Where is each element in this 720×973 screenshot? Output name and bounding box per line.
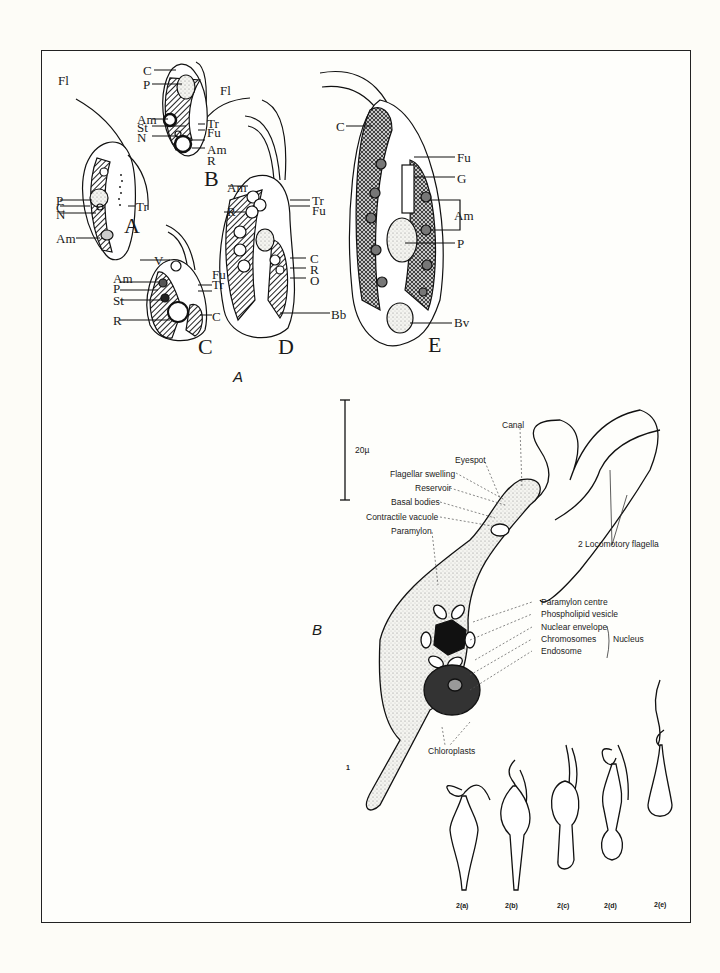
label-reservoir: Reservoir: [415, 484, 451, 493]
label-paramylon-centre: Paramylon centre: [541, 598, 608, 607]
stage-label-2d: 2(d): [604, 902, 617, 909]
label-Fu: Fu: [312, 204, 326, 217]
panel-label-A: A: [233, 368, 243, 385]
cell-label-D: D: [278, 336, 294, 358]
cell-label-A: A: [124, 215, 140, 237]
label-Tr: Tr: [136, 200, 148, 213]
cell-C: [120, 225, 212, 341]
stage-2e: [648, 680, 672, 816]
label-basal-bodies: Basal bodies: [391, 498, 440, 507]
label-G: G: [457, 172, 466, 185]
label-P: P: [143, 78, 150, 91]
figure-number: 1: [346, 764, 350, 771]
label-chloroplasts: Chloroplasts: [428, 747, 475, 756]
cell-E: [320, 72, 460, 346]
label-contractile-vacuole: Contractile vacuole: [366, 513, 438, 522]
label-paramylon: Paramylon: [391, 527, 432, 536]
stage-label-2b: 2(b): [505, 902, 518, 909]
label-chromosomes: Chromosomes: [541, 635, 596, 644]
label-endosome: Endosome: [541, 647, 582, 656]
scale-bar-label: 20µ: [355, 446, 369, 455]
label-N: N: [137, 131, 146, 144]
label-R: R: [227, 205, 236, 218]
label-Fl: Fl: [58, 74, 69, 87]
label-Fu: Fu: [207, 126, 221, 139]
label-C: C: [143, 64, 152, 77]
label-canal: Canal: [502, 421, 524, 430]
label-Bv: Bv: [454, 316, 469, 329]
label-Am: Am: [454, 209, 474, 222]
label-flagellar-swelling: Flagellar swelling: [390, 470, 455, 479]
cell-label-B: B: [204, 168, 219, 190]
stage-label-2a: 2(a): [456, 902, 468, 909]
stage-2b: [501, 760, 530, 890]
label-O: O: [310, 274, 319, 287]
stage-label-2c: 2(c): [557, 902, 569, 909]
label-Fu: Fu: [457, 151, 471, 164]
label-locomotory-flagella: 2 Locomotory flagella: [578, 540, 659, 549]
label-St: St: [113, 294, 124, 307]
label-Bb: Bb: [331, 308, 346, 321]
stage-2c: [552, 745, 579, 869]
scale-bar: [340, 400, 350, 500]
cell-D: [220, 100, 330, 338]
label-nucleus: Nucleus: [613, 635, 644, 644]
label-Am: Am: [56, 232, 76, 245]
panel-label-B: B: [312, 621, 322, 638]
label-Fl: Fl: [220, 84, 231, 97]
label-N: N: [56, 208, 65, 221]
label-Am: Am: [227, 181, 247, 194]
label-C: C: [212, 310, 221, 323]
stage-2d: [602, 745, 629, 860]
stage-2a: [447, 785, 490, 890]
stage-label-2e: 2(e): [654, 901, 666, 908]
label-phospholipid-vesicle: Phospholipid vesicle: [541, 610, 618, 619]
label-Tr: Tr: [212, 278, 224, 291]
label-C: C: [336, 120, 345, 133]
label-R: R: [113, 314, 122, 327]
cell-B: [152, 62, 250, 158]
cell-label-E: E: [428, 334, 441, 356]
label-nuclear-envelope: Nuclear envelope: [541, 623, 607, 632]
label-P: P: [457, 237, 464, 250]
cell-label-C: C: [198, 336, 213, 358]
label-eyespot: Eyespot: [455, 456, 486, 465]
label-V: V: [154, 254, 163, 267]
line-drawings: [0, 0, 720, 973]
